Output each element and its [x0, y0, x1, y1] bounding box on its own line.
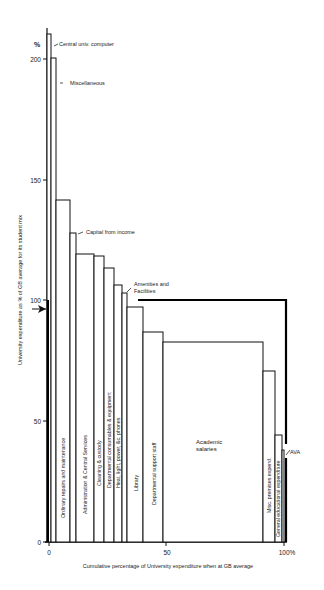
label-ava: AVA — [290, 449, 301, 455]
bar-heat-light — [114, 285, 122, 542]
label-academic-1: Academic — [196, 439, 222, 445]
label-heat-light: Heat, light, power, &c. phones — [115, 417, 121, 488]
label-ordinary-repairs: Ordinary repairs and maintenance — [60, 438, 66, 518]
y-tick-label-50: 50 — [34, 418, 42, 425]
bar-misc-premises — [263, 371, 275, 542]
y-tick-label-100: 100 — [30, 297, 41, 304]
label-amenities-1: Amenities and — [134, 281, 169, 287]
label-library: Library — [133, 474, 139, 491]
y-tick-label-150: 150 — [30, 177, 41, 184]
bar-amenities — [122, 293, 127, 542]
bar-library — [127, 307, 143, 542]
label-dept-support: Departmental support staff — [151, 442, 157, 505]
expenditure-chart: % 200 150 100 50 0 0 50 100% Cumulative … — [0, 0, 324, 590]
label-central-computer: Central univ. computer — [59, 41, 114, 47]
label-miscellaneous: Miscellaneous — [70, 80, 105, 86]
label-cleaning: Cleaning & custody — [96, 440, 102, 486]
bar-miscellaneous — [51, 58, 56, 542]
x-tick-label-0: 0 — [47, 549, 51, 556]
bar-cleaning — [94, 256, 104, 542]
y-axis-title: University expenditure as % of GB averag… — [17, 215, 23, 365]
label-administration: Administration & Central Services — [82, 435, 88, 514]
y-tick-label-0: 0 — [37, 539, 41, 546]
x-tick-label-100: 100% — [279, 549, 296, 556]
label-amenities-2: Facilities — [134, 288, 156, 294]
x-axis-title: Cumulative percentage of University expe… — [83, 563, 253, 569]
gb-average-arrow-icon — [32, 305, 46, 313]
bar-capital-from-income — [70, 233, 76, 542]
label-general-educational: General educational expenditure — [275, 460, 281, 537]
y-unit-label: % — [34, 41, 41, 48]
label-dept-consumables: Departmental consumables & equipment — [106, 392, 112, 488]
label-capital-from-income: Capital from income — [86, 229, 135, 235]
label-misc-premises: Misc. premises expend. — [266, 457, 272, 513]
label-academic-2: salaries — [196, 446, 217, 452]
bar-dept-support — [143, 332, 163, 542]
bar-ava — [282, 450, 284, 542]
x-tick-label-50: 50 — [163, 549, 171, 556]
y-tick-label-200: 200 — [30, 56, 41, 63]
